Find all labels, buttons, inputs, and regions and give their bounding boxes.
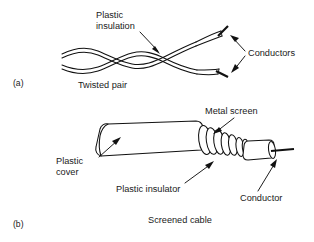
- diagram-svg: Plastic insulation Conductors (a) Twiste…: [0, 0, 314, 242]
- metal-screen-coil: [197, 125, 251, 158]
- panel-b-caption: Screened cable: [148, 215, 212, 225]
- figure-canvas: Plastic insulation Conductors (a) Twiste…: [0, 0, 314, 242]
- plastic-insulation-label-line1: Plastic: [96, 10, 123, 20]
- lower-conductor-sheath: [197, 69, 219, 70]
- plastic-cover-label-line1: Plastic: [56, 156, 83, 166]
- panel-a-caption: Twisted pair: [78, 80, 127, 90]
- conductors-arrowhead-upper: [230, 35, 239, 42]
- conductor-label: Conductor: [240, 193, 282, 203]
- twisted-strand-lower-edge: [62, 56, 197, 74]
- panel-b-marker: (b): [13, 219, 24, 229]
- upper-conductor-sheath: [196, 31, 221, 42]
- lower-conductor-sheath-edge: [197, 74, 218, 75]
- metal-screen-label: Metal screen: [205, 106, 258, 116]
- conductor-leader: [258, 163, 275, 191]
- conductors-label: Conductors: [248, 48, 295, 58]
- twisted-pair-illustration: Plastic insulation Conductors (a) Twiste…: [13, 10, 295, 90]
- upper-conductor-sheath-edge: [196, 36, 222, 46]
- conductor-arrowhead: [270, 159, 277, 168]
- twisted-strand-upper: [62, 42, 196, 65]
- panel-a-marker: (a): [13, 78, 24, 88]
- plastic-cover-body: [96, 121, 207, 156]
- plastic-cover-label-line2: cover: [56, 167, 78, 177]
- plastic-insulation-arrowhead: [152, 46, 160, 54]
- twisted-strand-upper-edge: [62, 46, 196, 69]
- plastic-insulation-label-line2: insulation: [96, 21, 135, 31]
- screened-cable-illustration: Metal screen Plastic cover Plastic insul…: [13, 106, 294, 229]
- plastic-insulator-label: Plastic insulator: [116, 184, 180, 194]
